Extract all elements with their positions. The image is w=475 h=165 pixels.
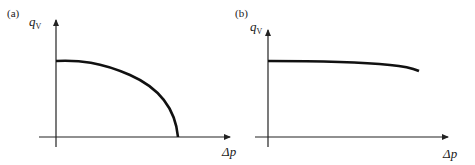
- panel-a-x-axis-label: Δp: [221, 144, 237, 159]
- panel-a-label: (a): [7, 7, 20, 20]
- panel-a-curve: [56, 61, 178, 137]
- panel-a-y-axis-label: qV: [29, 14, 42, 31]
- panel-a: (a) qV Δp: [7, 7, 237, 159]
- panel-b: (b) qV Δp: [235, 7, 458, 161]
- panel-b-y-axis-label: qV: [250, 19, 263, 36]
- panel-b-label: (b): [235, 7, 248, 20]
- panel-b-curve: [268, 61, 419, 71]
- panel-b-x-axis-label: Δp: [442, 146, 458, 161]
- figure-canvas: (a) qV Δp (b) qV Δp: [0, 0, 475, 165]
